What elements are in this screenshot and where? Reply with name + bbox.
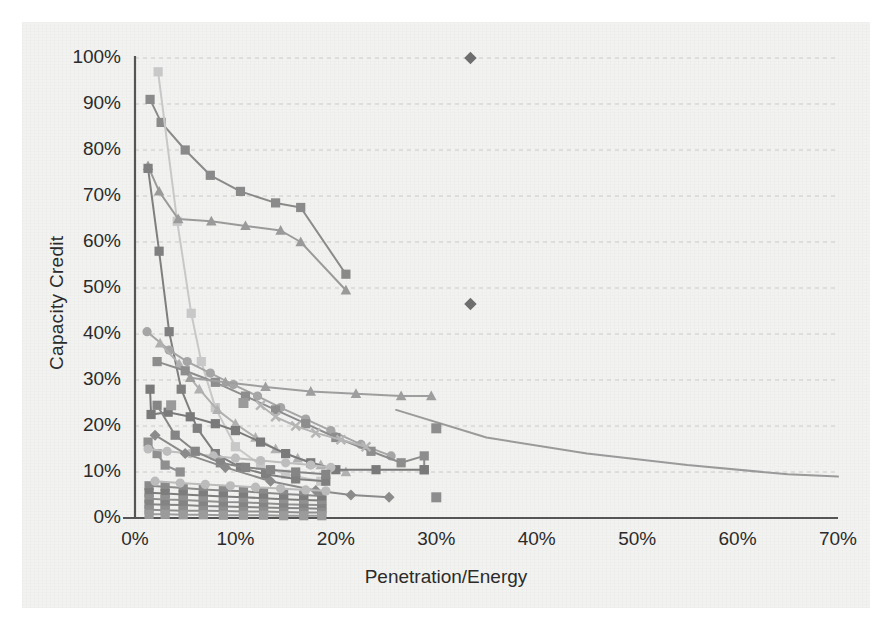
data-point-1 xyxy=(155,247,164,256)
data-point-5 xyxy=(271,198,280,207)
data-point-9 xyxy=(420,451,429,460)
data-point-1 xyxy=(146,410,155,419)
data-point-0 xyxy=(144,510,153,519)
y-tick-0: 0% xyxy=(55,506,121,528)
data-point-6 xyxy=(256,438,265,447)
series-series-11-square-flat xyxy=(152,401,330,479)
x-axis-title: Penetration/Energy xyxy=(0,566,892,588)
series-line xyxy=(396,410,838,477)
data-point-4 xyxy=(229,380,238,389)
data-point-3 xyxy=(177,385,186,394)
data-point-2 xyxy=(201,480,210,489)
data-point-10 xyxy=(371,465,380,474)
outlier-mid-diamond xyxy=(464,298,477,311)
data-point-7 xyxy=(341,270,350,279)
x-tick-70: 70% xyxy=(803,528,873,550)
data-point-0 xyxy=(145,95,154,104)
data-point-6 xyxy=(259,511,268,520)
data-point-0 xyxy=(145,385,154,394)
outlier-top-diamond xyxy=(464,52,477,65)
data-point-0 xyxy=(143,164,152,173)
data-point-7 xyxy=(321,486,330,495)
data-point-3 xyxy=(206,171,215,180)
data-point-1 xyxy=(176,478,185,487)
gridlines xyxy=(135,58,838,518)
data-point-7 xyxy=(306,460,315,469)
data-point-0 xyxy=(152,357,161,366)
data-point-6 xyxy=(291,467,300,476)
data-point-0 xyxy=(153,67,162,76)
series-series-13-line-long-tail xyxy=(396,410,838,477)
series-line xyxy=(149,514,322,515)
isolated-square-b xyxy=(431,492,441,502)
data-point-5 xyxy=(231,426,240,435)
data-point-6 xyxy=(295,237,306,247)
data-point-1 xyxy=(181,366,190,375)
data-point-4 xyxy=(219,511,228,520)
series-line xyxy=(150,99,346,274)
data-point-9 xyxy=(317,511,326,520)
data-point-6 xyxy=(384,492,395,503)
data-point-0 xyxy=(152,401,161,410)
data-point-3 xyxy=(226,481,235,490)
data-point-3 xyxy=(176,467,185,476)
data-point-8 xyxy=(299,511,308,520)
y-tick-20: 20% xyxy=(55,414,121,436)
data-point-5 xyxy=(301,419,310,428)
data-point-8 xyxy=(397,458,406,467)
data-point-1 xyxy=(161,510,170,519)
data-point-4 xyxy=(193,424,202,433)
y-tick-90: 90% xyxy=(55,92,121,114)
data-point-7 xyxy=(279,511,288,520)
data-point-2 xyxy=(181,145,190,154)
x-tick-30: 30% xyxy=(401,528,471,550)
data-point-3 xyxy=(199,510,208,519)
data-point-4 xyxy=(211,419,220,428)
data-point-0 xyxy=(143,444,152,453)
data-point-7 xyxy=(281,449,290,458)
series-series-09-short-square xyxy=(143,438,184,477)
data-point-3 xyxy=(186,412,195,421)
x-tick-0: 0% xyxy=(100,528,170,550)
data-point-2 xyxy=(161,461,170,470)
data-point-5 xyxy=(231,442,240,451)
data-point-0 xyxy=(142,327,151,336)
x-tick-20: 20% xyxy=(301,528,371,550)
data-point-4 xyxy=(236,187,245,196)
isolated-square-a xyxy=(431,423,441,433)
y-axis-title: Capacity Credit xyxy=(46,236,68,370)
data-point-6 xyxy=(301,485,310,494)
data-point-6 xyxy=(281,458,290,467)
x-tick-10: 10% xyxy=(200,528,270,550)
data-point-0 xyxy=(150,477,159,486)
data-point-1 xyxy=(154,186,165,196)
data-point-2 xyxy=(191,447,200,456)
series-series-01-square-dark xyxy=(145,95,350,279)
data-point-5 xyxy=(266,465,275,474)
series-series-03-triangle-dark xyxy=(143,161,351,295)
isolated-square-d xyxy=(166,400,176,410)
series-series-12-triangle-long xyxy=(185,372,437,400)
data-point-5 xyxy=(276,484,285,493)
x-tick-50: 50% xyxy=(602,528,672,550)
y-tick-70: 70% xyxy=(55,184,121,206)
data-point-2 xyxy=(179,510,188,519)
series-layer xyxy=(142,67,838,520)
y-tick-40: 40% xyxy=(55,322,121,344)
isolated-square-c xyxy=(238,398,248,408)
data-point-1 xyxy=(163,447,172,456)
y-tick-10: 10% xyxy=(55,460,121,482)
y-tick-80: 80% xyxy=(55,138,121,160)
x-tick-40: 40% xyxy=(502,528,572,550)
chart-page: Capacity Credit Penetration/Energy 0%10%… xyxy=(0,0,892,629)
y-tick-50: 50% xyxy=(55,276,121,298)
y-tick-100: 100% xyxy=(55,46,121,68)
axes xyxy=(123,56,838,518)
data-point-2 xyxy=(165,327,174,336)
x-tick-60: 60% xyxy=(703,528,773,550)
data-point-5 xyxy=(345,490,356,501)
data-point-5 xyxy=(256,456,265,465)
data-point-1 xyxy=(171,431,180,440)
data-point-4 xyxy=(231,454,240,463)
data-point-6 xyxy=(296,203,305,212)
